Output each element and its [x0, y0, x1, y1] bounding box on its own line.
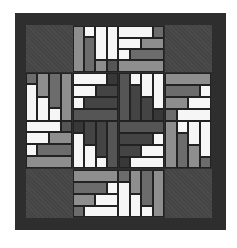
quilt-strip	[73, 109, 118, 121]
quilt-strip	[73, 97, 84, 109]
quilt-strip	[141, 73, 153, 97]
quilt-strip	[153, 73, 164, 109]
quilt-strip	[84, 206, 118, 217]
quilt-strip	[118, 49, 130, 60]
quilt-strip	[118, 170, 130, 182]
quilt-strip	[107, 26, 118, 60]
quilt-strip	[141, 97, 153, 121]
quilt-strip	[26, 144, 37, 156]
corner-block-top-right	[165, 25, 212, 72]
quilt-strip	[49, 108, 61, 121]
quilt-strip	[130, 73, 141, 85]
quilt-strip	[130, 157, 164, 168]
quilt-strip	[119, 133, 153, 145]
quilt-strip	[165, 109, 177, 121]
quilt-strip	[130, 49, 164, 60]
quilt-strip	[26, 156, 72, 168]
quilt-strip	[73, 182, 107, 194]
corner-block-top-left	[26, 25, 73, 72]
quilt-strip	[188, 145, 200, 168]
quilt-strip	[153, 109, 164, 121]
quilt-strip	[188, 97, 211, 109]
quilt-strip	[37, 73, 49, 97]
quilt-strip	[84, 145, 96, 168]
quilt-strip	[119, 157, 130, 168]
quilt-strip	[26, 121, 61, 132]
quilt-strip	[84, 121, 96, 145]
quilt-strip	[107, 60, 118, 72]
quilt-strip	[73, 85, 96, 97]
quilt-strip	[49, 73, 61, 108]
quilt-strip	[96, 121, 107, 157]
quilt-strip	[177, 133, 188, 168]
quilt-strip	[141, 38, 164, 49]
quilt-strip	[84, 26, 95, 37]
quilt-strip	[73, 170, 118, 182]
quilt-strip	[107, 121, 118, 168]
corner-block-bottom-right	[165, 169, 212, 218]
quilt-strip	[107, 73, 118, 85]
quilt-strip	[73, 121, 84, 133]
quilt-strip	[119, 121, 164, 133]
quilt-strip	[95, 60, 107, 72]
quilt-strip	[96, 85, 118, 97]
quilt-strip	[49, 132, 72, 144]
quilt-strip	[61, 121, 72, 132]
quilt-strip	[200, 157, 211, 168]
quilt-strip	[119, 73, 130, 121]
quilt-strip	[153, 26, 164, 38]
quilt-strip	[73, 73, 107, 85]
quilt-strip	[153, 133, 164, 145]
quilt-strip	[200, 121, 211, 157]
quilt-strip	[165, 121, 177, 168]
quilt-strip	[73, 194, 95, 206]
quilt-strip	[118, 182, 130, 217]
quilt-strip	[73, 206, 84, 217]
quilt-strip	[141, 145, 164, 157]
quilt-strip	[165, 97, 188, 109]
quilt-strip	[177, 121, 188, 133]
quilt-strip	[118, 38, 141, 49]
quilt-strip	[96, 157, 107, 168]
quilt-strip	[188, 121, 200, 145]
corner-block-bottom-left	[26, 169, 73, 218]
quilt-strip	[26, 132, 49, 144]
quilt-strip	[95, 26, 107, 60]
quilt-strip	[165, 73, 211, 85]
quilt-strip	[61, 73, 72, 121]
quilt-strip	[37, 144, 72, 156]
quilt-strip	[177, 109, 211, 121]
quilt-strip	[141, 170, 153, 206]
quilt-strip	[73, 133, 84, 168]
quilt-strip	[26, 73, 37, 84]
quilt-strip	[118, 60, 164, 72]
quilt-strip	[130, 194, 141, 217]
quilt-strip	[165, 85, 200, 97]
quilt-strip	[26, 84, 37, 121]
quilt-strip	[130, 85, 141, 121]
quilt-strip	[95, 194, 118, 206]
quilt-strip	[141, 206, 153, 217]
quilt-strip	[153, 170, 164, 217]
quilt-strip	[130, 170, 141, 194]
quilt-strip	[37, 97, 49, 121]
quilt-strip	[73, 26, 84, 72]
quilt-strip	[118, 26, 153, 38]
quilt-strip	[200, 85, 211, 97]
quilt-strip	[84, 97, 118, 109]
quilt-strip	[107, 182, 118, 194]
quilt-strip	[119, 145, 141, 157]
quilt-strip	[84, 37, 95, 72]
